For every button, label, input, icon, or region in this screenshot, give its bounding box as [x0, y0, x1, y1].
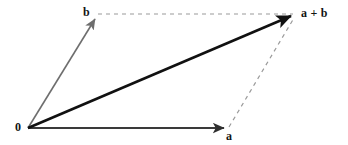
vector-addition-figure: 0 b a a + b — [0, 0, 348, 145]
vector-sum-label: a + b — [301, 7, 328, 19]
vector-b-label: b — [83, 6, 90, 18]
origin-label: 0 — [15, 121, 21, 133]
vector-b-arrow — [28, 19, 95, 128]
vector-diagram-canvas — [0, 0, 348, 145]
vector-sum-arrow — [28, 16, 291, 128]
dashed-edge-a-to-sum — [229, 18, 294, 127]
vector-a-label: a — [226, 130, 232, 142]
